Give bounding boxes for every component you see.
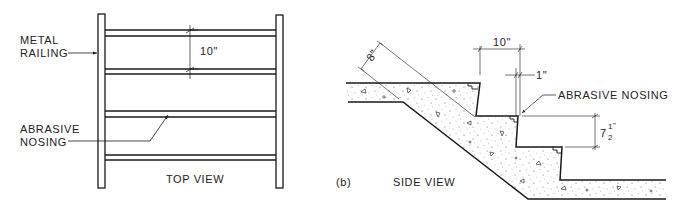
- metal-railing-label-1: METAL: [20, 34, 59, 46]
- right-railing: [276, 15, 283, 188]
- abrasive-nosing-leader-top: [68, 115, 168, 141]
- abrasive-nosing-label-2: NOSING: [20, 136, 67, 148]
- abrasive-nosing-side-label: ABRASIVE NOSING: [558, 89, 668, 101]
- tread-depth-dimension: [473, 44, 525, 116]
- left-railing: [98, 14, 105, 188]
- riser-height-unit: ": [613, 121, 616, 130]
- side-view-caption: SIDE VIEW: [393, 176, 455, 188]
- tread-nosing-strips: [105, 30, 276, 160]
- tread-spacing-label: 10": [200, 45, 218, 57]
- tread-spacing-dimension: [186, 25, 198, 79]
- tread-depth-label: 10": [493, 36, 511, 48]
- slab-thickness-label: 8": [364, 47, 380, 63]
- riser-height-denominator: 2: [608, 133, 613, 142]
- side-view: 8" 10" 1" ABRASIVE NOSING 7: [346, 36, 668, 199]
- metal-railing-label-2: RAILING: [20, 47, 68, 59]
- top-view-caption: TOP VIEW: [166, 173, 224, 185]
- abrasive-nosing-leader-side: [522, 95, 556, 113]
- panel-label: (b): [336, 176, 351, 188]
- nosing-overhang-label: 1": [536, 69, 547, 81]
- stair-detail-drawing: 10" METAL RAILING ABRASIVE NOSING TOP VI…: [0, 0, 683, 210]
- riser-height-whole: 7: [600, 127, 607, 139]
- abrasive-nosing-label-1: ABRASIVE: [20, 123, 80, 135]
- top-view: [68, 14, 283, 188]
- riser-height-dimension: [522, 113, 600, 150]
